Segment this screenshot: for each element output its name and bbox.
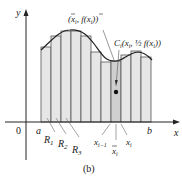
point-label: (xi, f(xi)) xyxy=(68,14,98,25)
x-i-minus-1-label: xi−1 xyxy=(93,137,107,148)
r3-label: R3 xyxy=(71,144,82,157)
y-axis-arrow-icon xyxy=(24,9,29,16)
origin-label: 0 xyxy=(16,125,21,136)
x-axis-arrow-icon xyxy=(173,120,180,125)
y-axis-label: y xyxy=(15,7,21,18)
x-axis-label: x xyxy=(173,127,179,138)
b-label: b xyxy=(147,125,152,136)
r1-label: R1 xyxy=(43,134,54,147)
caption: (b) xyxy=(83,163,95,175)
riemann-centroid-diagram: y x 0 a b R1 R2 R3 xi−1 xi xi (xi, f(xi)… xyxy=(0,0,182,180)
x-i-label: xi xyxy=(125,137,132,148)
x-bar-i-label: xi xyxy=(111,146,118,157)
centroid-dot xyxy=(114,90,118,94)
centroid-label: Ci(xi, ½ f(xi)) xyxy=(114,38,161,49)
a-label: a xyxy=(36,125,41,136)
r2-label: R2 xyxy=(57,138,68,151)
